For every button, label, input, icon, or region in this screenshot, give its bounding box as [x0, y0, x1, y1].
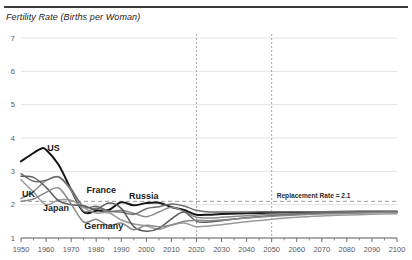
svg-text:4: 4 — [11, 134, 15, 143]
svg-text:2060: 2060 — [288, 245, 305, 254]
svg-text:1950: 1950 — [13, 245, 30, 254]
series-label-germany: Germany — [84, 221, 123, 231]
series-label-russia: Russia — [129, 191, 160, 201]
line-chart-plot: 1234567195019601970198019902000201020202… — [0, 0, 412, 260]
series-label-france: France — [86, 185, 116, 195]
svg-text:2080: 2080 — [339, 245, 356, 254]
data-series-group — [21, 148, 397, 231]
svg-text:2070: 2070 — [313, 245, 330, 254]
svg-text:2020: 2020 — [188, 245, 205, 254]
svg-text:2100: 2100 — [389, 245, 406, 254]
fertility-rate-chart-card: Fertility Rate (Births per Woman) 123456… — [0, 0, 412, 260]
series-label-uk: UK — [22, 189, 35, 199]
svg-text:6: 6 — [11, 67, 15, 76]
svg-text:2000: 2000 — [138, 245, 155, 254]
series-label-us: US — [47, 143, 60, 153]
svg-text:2010: 2010 — [163, 245, 180, 254]
svg-text:2040: 2040 — [238, 245, 255, 254]
svg-text:1970: 1970 — [63, 245, 80, 254]
dashed-markers — [21, 34, 397, 238]
svg-text:2030: 2030 — [213, 245, 230, 254]
svg-text:1960: 1960 — [38, 245, 55, 254]
svg-text:7: 7 — [11, 34, 15, 43]
annotation-label-group: Replacement Rate = 2.1 — [277, 192, 351, 200]
svg-text:1980: 1980 — [88, 245, 105, 254]
grid-lines — [21, 38, 397, 238]
series-label-japan: Japan — [43, 203, 69, 213]
svg-text:3: 3 — [11, 167, 15, 176]
series-label-group: USUKFranceJapanRussiaGermany — [22, 143, 160, 232]
svg-text:1990: 1990 — [113, 245, 130, 254]
axis-group — [21, 238, 397, 242]
svg-text:1: 1 — [11, 234, 15, 243]
svg-text:2: 2 — [11, 200, 15, 209]
svg-text:2050: 2050 — [263, 245, 280, 254]
svg-text:2090: 2090 — [364, 245, 381, 254]
svg-text:5: 5 — [11, 100, 15, 109]
annotation-replacement-rate: Replacement Rate = 2.1 — [277, 192, 351, 200]
